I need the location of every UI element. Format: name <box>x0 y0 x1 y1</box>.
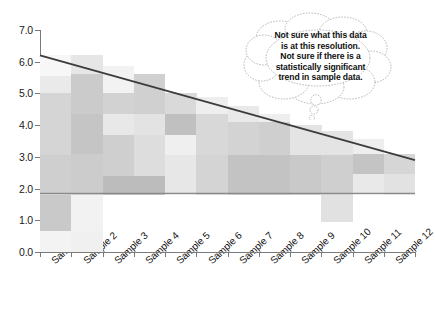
heatmap-cell <box>103 135 135 176</box>
heatmap-cell <box>71 154 103 195</box>
heatmap-cell <box>134 135 166 176</box>
y-axis-label: 6.0 <box>3 56 33 68</box>
heatmap-cell <box>40 93 72 155</box>
thought-bubble-line: trend in sample data. <box>254 72 387 83</box>
heatmap-cell <box>165 93 197 114</box>
heatmap-cell <box>40 195 72 231</box>
heatmap-cell <box>321 131 353 155</box>
heatmap-cell <box>321 155 353 195</box>
heatmap-cell <box>290 125 322 155</box>
heatmap-cell <box>134 74 166 114</box>
heatmap-cell <box>71 55 103 74</box>
heatmap-cell <box>40 155 72 195</box>
heatmap-cell <box>71 114 103 154</box>
heatmap-cell <box>353 174 385 195</box>
y-axis-label: 2.0 <box>3 183 33 195</box>
x-axis-line <box>40 252 415 253</box>
y-axis-label: 3.0 <box>3 151 33 163</box>
heatmap-cell <box>259 155 291 195</box>
heatmap-cell <box>103 114 135 135</box>
heatmap-cell <box>165 155 197 195</box>
heatmap-cell <box>71 195 103 231</box>
heatmap-cell <box>134 114 166 135</box>
thought-bubble-line: Not sure what this data <box>254 30 387 41</box>
heatmap-cell <box>40 231 72 252</box>
heatmap-cell <box>196 97 228 114</box>
thought-bubble-line: is at this resolution. <box>254 41 387 52</box>
y-axis-label: 7.0 <box>3 24 33 36</box>
heatmap-cell <box>40 55 72 76</box>
heatmap-cell <box>353 154 385 175</box>
heatmap-cell <box>196 114 228 155</box>
y-axis-label: 5.0 <box>3 87 33 99</box>
thought-bubble-line: Not sure if there is a <box>254 51 387 62</box>
heatmap-cell <box>103 176 135 195</box>
heatmap-cell <box>228 122 260 155</box>
heatmap-cell <box>103 66 135 93</box>
heatmap-cell <box>103 93 135 114</box>
heatmap-cell <box>321 195 353 222</box>
heatmap-cell <box>290 155 322 195</box>
heatmap-cell <box>165 135 197 156</box>
y-axis-label: 1.0 <box>3 214 33 226</box>
heatmap-cell <box>196 155 228 195</box>
heatmap-cell <box>165 114 197 135</box>
heatmap-cell <box>134 176 166 195</box>
heatmap-cell <box>71 74 103 114</box>
thought-bubble-annotation: Not sure what this datais at this resolu… <box>238 8 403 120</box>
heatmap-cell <box>71 231 103 252</box>
heatmap-cell <box>259 122 291 155</box>
thought-bubble-text: Not sure what this datais at this resolu… <box>254 30 387 83</box>
y-axis-label: 0.0 <box>3 246 33 258</box>
x-axis-tick <box>415 252 416 257</box>
y-axis-label: 4.0 <box>3 119 33 131</box>
heatmap-cell <box>384 154 416 175</box>
heatmap-cell <box>40 76 72 93</box>
heatmap-cell <box>353 139 385 153</box>
heatmap-cell <box>228 155 260 195</box>
thought-bubble-line: statistically significant <box>254 62 387 73</box>
heatmap-cell <box>384 174 416 195</box>
